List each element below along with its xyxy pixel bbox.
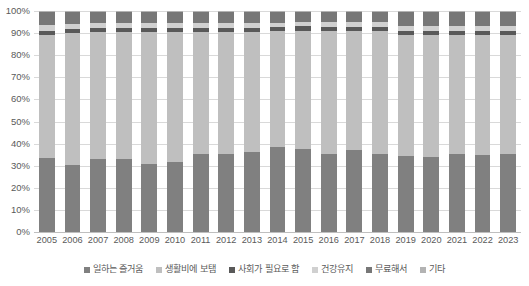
y-axis-label: 0% xyxy=(0,227,30,236)
x-axis-label: 2023 xyxy=(495,235,521,246)
bar-segment xyxy=(346,31,362,150)
x-axis-label: 2007 xyxy=(85,235,111,246)
bar-segment xyxy=(218,12,234,23)
y-axis-label: 40% xyxy=(0,139,30,148)
bar-segment xyxy=(321,31,337,154)
y-axis-label: 80% xyxy=(0,50,30,59)
y-axis-label: 20% xyxy=(0,183,30,192)
bar-segment xyxy=(141,32,157,163)
bar-2013[interactable] xyxy=(244,11,260,232)
bar-2010[interactable] xyxy=(167,11,183,232)
bar-2019[interactable] xyxy=(398,11,414,232)
bar-segment xyxy=(449,12,465,26)
y-axis-label: 10% xyxy=(0,205,30,214)
bar-2021[interactable] xyxy=(449,11,465,232)
bar-segment xyxy=(398,35,414,156)
bar-segment xyxy=(321,154,337,232)
bar-2018[interactable] xyxy=(372,11,388,232)
bar-segment xyxy=(500,12,516,26)
x-axis-label: 2008 xyxy=(111,235,137,246)
bar-segment xyxy=(423,35,439,157)
legend-label: 생활비에 보탬 xyxy=(165,264,216,275)
bar-2016[interactable] xyxy=(321,11,337,232)
bar-2012[interactable] xyxy=(218,11,234,232)
legend-label: 건강유지 xyxy=(321,264,353,275)
bar-segment xyxy=(346,150,362,232)
legend-swatch-icon xyxy=(420,267,426,273)
legend-item[interactable]: 건강유지 xyxy=(312,264,353,275)
bar-segment xyxy=(346,12,362,22)
legend-swatch-icon xyxy=(84,267,90,273)
bar-segment xyxy=(270,12,286,23)
x-axis-label: 2016 xyxy=(316,235,342,246)
y-axis-label: 100% xyxy=(0,6,30,15)
bar-segment xyxy=(398,156,414,232)
legend-item[interactable]: 사회가 필요로 함 xyxy=(229,264,299,275)
bar-segment xyxy=(372,12,388,22)
legend-label: 사회가 필요로 함 xyxy=(238,264,299,275)
bar-segment xyxy=(244,32,260,152)
bar-segment xyxy=(372,154,388,232)
legend-item[interactable]: 무료해서 xyxy=(366,264,407,275)
bar-segment xyxy=(372,31,388,154)
bar-segment xyxy=(244,152,260,232)
bar-segment xyxy=(193,12,209,23)
bar-segment xyxy=(39,12,55,25)
bar-segment xyxy=(500,35,516,154)
bar-2014[interactable] xyxy=(270,11,286,232)
x-axis-label: 2018 xyxy=(367,235,393,246)
legend-item[interactable]: 기타 xyxy=(420,264,445,275)
bar-2017[interactable] xyxy=(346,11,362,232)
bar-segment xyxy=(193,32,209,154)
bar-2007[interactable] xyxy=(90,11,106,232)
bar-segment xyxy=(270,31,286,147)
bar-segment xyxy=(321,12,337,22)
legend-label: 기타 xyxy=(429,264,445,275)
bar-segment xyxy=(398,12,414,26)
x-axis-label: 2005 xyxy=(34,235,60,246)
y-axis-label: 70% xyxy=(0,72,30,81)
bar-2020[interactable] xyxy=(423,11,439,232)
bar-segment xyxy=(141,12,157,23)
bar-2023[interactable] xyxy=(500,11,516,232)
legend-label: 일하는 즐거움 xyxy=(93,264,144,275)
x-axis-label: 2019 xyxy=(393,235,419,246)
x-axis-label: 2014 xyxy=(265,235,291,246)
bar-segment xyxy=(193,154,209,232)
bar-segment xyxy=(39,35,55,158)
bar-2005[interactable] xyxy=(39,11,55,232)
bar-segment xyxy=(270,147,286,232)
x-axis-label: 2015 xyxy=(290,235,316,246)
bar-segment xyxy=(116,12,132,23)
bar-segment xyxy=(65,33,81,164)
bar-2011[interactable] xyxy=(193,11,209,232)
bar-segment xyxy=(475,155,491,232)
y-axis-label: 30% xyxy=(0,161,30,170)
x-axis-label: 2006 xyxy=(60,235,86,246)
bar-segment xyxy=(90,159,106,232)
bar-2009[interactable] xyxy=(141,11,157,232)
bar-segment xyxy=(65,165,81,232)
legend-item[interactable]: 생활비에 보탬 xyxy=(156,264,216,275)
legend-item[interactable]: 일하는 즐거움 xyxy=(84,264,144,275)
plot-area xyxy=(34,11,521,232)
bar-segment xyxy=(116,32,132,159)
bar-segment xyxy=(423,12,439,26)
chart-legend: 일하는 즐거움생활비에 보탬사회가 필요로 함건강유지무료해서기타 xyxy=(0,264,529,275)
bar-2022[interactable] xyxy=(475,11,491,232)
x-axis-label: 2022 xyxy=(470,235,496,246)
bar-2006[interactable] xyxy=(65,11,81,232)
x-axis-label: 2012 xyxy=(213,235,239,246)
bar-2015[interactable] xyxy=(295,11,311,232)
bar-segment xyxy=(449,154,465,232)
x-axis-label: 2017 xyxy=(342,235,368,246)
legend-swatch-icon xyxy=(229,267,235,273)
bar-segment xyxy=(218,154,234,232)
y-axis-label: 90% xyxy=(0,28,30,37)
bar-segment xyxy=(423,157,439,232)
bar-segment xyxy=(295,149,311,232)
bar-segment xyxy=(167,162,183,232)
bar-segment xyxy=(90,12,106,23)
bar-segment xyxy=(449,35,465,154)
bar-2008[interactable] xyxy=(116,11,132,232)
